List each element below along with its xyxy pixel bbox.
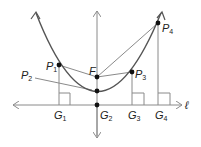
right-angle-g3 bbox=[132, 93, 144, 105]
label-g3: G3 bbox=[128, 109, 141, 122]
right-angle-g4 bbox=[158, 93, 170, 105]
label-g1: G1 bbox=[54, 109, 67, 122]
point-p3 bbox=[130, 70, 135, 75]
p2-leader-line bbox=[35, 78, 92, 90]
label-directrix: ℓ bbox=[184, 99, 189, 111]
segment-p4-f bbox=[97, 23, 158, 77]
point-g2 bbox=[95, 103, 100, 108]
label-p3: P3 bbox=[135, 68, 146, 81]
label-p4: P4 bbox=[162, 22, 173, 35]
parabola-diagram: P1 P2 P3 P4 F G1 G2 G3 G4 ℓ bbox=[0, 0, 201, 147]
label-g4: G4 bbox=[155, 109, 168, 122]
right-angle-g1 bbox=[59, 93, 70, 105]
label-g2: G2 bbox=[100, 109, 113, 122]
label-p1: P1 bbox=[46, 60, 57, 73]
point-vertex bbox=[95, 89, 100, 94]
label-p2: P2 bbox=[21, 69, 32, 82]
point-p4 bbox=[156, 21, 161, 26]
point-p1 bbox=[57, 63, 62, 68]
